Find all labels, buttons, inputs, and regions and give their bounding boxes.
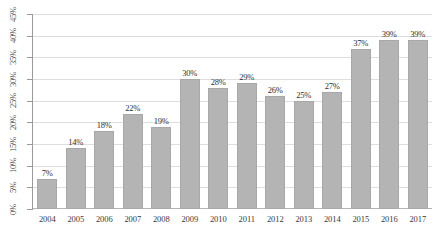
bar-group[interactable]: 29% [237,14,257,209]
bar[interactable] [180,79,200,209]
bar[interactable] [151,127,171,209]
x-axis-tick-label: 2005 [62,212,91,226]
bar[interactable] [66,148,86,209]
x-axis-tick-label: 2007 [119,212,148,226]
bar-value-label: 22% [116,103,150,113]
bar-group[interactable]: 28% [208,14,228,209]
bar-value-label: 19% [144,116,178,126]
bar-group[interactable]: 14% [66,14,86,209]
y-axis-tick-labels: 0%5%10%15%20%25%30%35%40%45% [0,0,26,240]
y-axis-tick-mark [27,209,33,210]
x-axis-tick-label: 2004 [33,212,62,226]
bar[interactable] [237,83,257,209]
bar-value-label: 37% [344,38,378,48]
bar[interactable] [322,92,342,209]
x-axis-tick-label: 2011 [233,212,262,226]
bar-chart: 0%5%10%15%20%25%30%35%40%45% 7%14%18%22%… [0,0,442,240]
x-axis-tick-label: 2015 [347,212,376,226]
bar-group[interactable]: 25% [294,14,314,209]
bar-group[interactable]: 26% [265,14,285,209]
bar-group[interactable]: 7% [37,14,57,209]
bar-value-label: 18% [87,120,121,130]
bar-group[interactable]: 37% [351,14,371,209]
bar-value-label: 27% [315,81,349,91]
x-axis-tick-label: 2012 [261,212,290,226]
y-axis-tick-label: 45% [8,1,19,27]
bar-value-label: 39% [401,29,435,39]
bar[interactable] [351,49,371,209]
bar-group[interactable]: 39% [379,14,399,209]
bar-value-label: 25% [287,90,321,100]
bar[interactable] [123,114,143,209]
bar-group[interactable]: 22% [123,14,143,209]
x-axis-tick-label: 2014 [318,212,347,226]
bar[interactable] [94,131,114,209]
x-axis-tick-labels: 2004200520062007200820092010201120122013… [33,212,432,230]
x-axis-tick-label: 2008 [147,212,176,226]
x-axis-tick-label: 2006 [90,212,119,226]
bar[interactable] [265,96,285,209]
bars-layer: 7%14%18%22%19%30%28%29%26%25%27%37%39%39… [33,14,432,209]
bar-group[interactable]: 19% [151,14,171,209]
bar-value-label: 7% [30,168,64,178]
bar-group[interactable]: 18% [94,14,114,209]
bar[interactable] [408,40,428,209]
x-axis-tick-label: 2013 [290,212,319,226]
bar[interactable] [208,88,228,209]
bar[interactable] [379,40,399,209]
bar-value-label: 29% [230,72,264,82]
bar-group[interactable]: 30% [180,14,200,209]
bar[interactable] [37,179,57,209]
bar-value-label: 14% [59,137,93,147]
bar-group[interactable]: 27% [322,14,342,209]
x-axis-tick-label: 2010 [204,212,233,226]
bar-group[interactable]: 39% [408,14,428,209]
x-axis-tick-label: 2017 [404,212,433,226]
x-axis-tick-label: 2009 [176,212,205,226]
x-axis-tick-label: 2016 [375,212,404,226]
bar[interactable] [294,101,314,209]
